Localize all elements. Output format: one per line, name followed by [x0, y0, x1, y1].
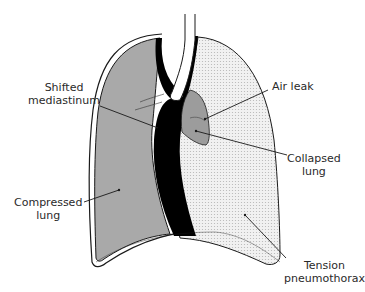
label-compressed-lung: Compressed lung — [14, 196, 82, 222]
label-shifted-mediastinum: Shifted mediastinum — [28, 81, 100, 107]
label-shifted-mediastinum-line1: Shifted — [28, 81, 100, 94]
label-compressed-lung-line2: lung — [14, 209, 82, 222]
label-collapsed-lung-line1: Collapsed — [287, 152, 341, 165]
label-collapsed-lung-line2: lung — [287, 165, 341, 178]
label-shifted-mediastinum-line2: mediastinum — [28, 94, 100, 107]
label-tension-pneumothorax-line1: Tension — [284, 259, 365, 272]
label-air-leak: Air leak — [272, 80, 314, 93]
label-tension-pneumothorax-line2: pneumothorax — [284, 272, 365, 285]
label-tension-pneumothorax: Tension pneumothorax — [284, 259, 365, 285]
label-collapsed-lung: Collapsed lung — [287, 152, 341, 178]
label-compressed-lung-line1: Compressed — [14, 196, 82, 209]
label-air-leak-line1: Air leak — [272, 80, 314, 93]
